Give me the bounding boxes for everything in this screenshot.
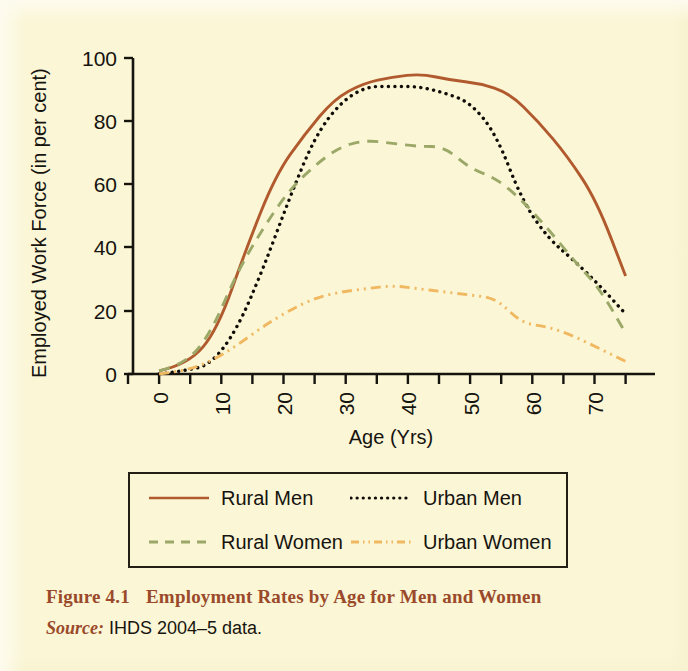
figure-page: 100 80 60 40 20 0 Employed Work Force (i…	[0, 0, 688, 671]
series-line-urban-men	[159, 86, 625, 374]
legend-swatch-urban-men	[350, 491, 412, 505]
y-tick-40: 40	[94, 236, 117, 259]
x-tick-70: 70	[584, 392, 607, 415]
source-text: IHDS 2004–5 data.	[109, 618, 262, 638]
x-tick-10: 10	[211, 392, 234, 415]
x-axis-title: Age (Yrs)	[349, 426, 433, 448]
x-tick-40: 40	[397, 392, 420, 415]
source-label: Source:	[46, 618, 104, 638]
y-axis-tick-labels: 100 80 60 40 20 0	[82, 47, 117, 386]
x-tick-50: 50	[460, 392, 483, 415]
x-tick-20: 20	[273, 392, 296, 415]
legend-entry-urban-men: Urban Men	[350, 487, 552, 510]
series-line-rural-men	[159, 75, 625, 371]
employment-rates-line-chart: 100 80 60 40 20 0 Employed Work Force (i…	[0, 0, 688, 460]
x-tick-0: 0	[149, 392, 172, 404]
caption-block: Figure 4.1Employment Rates by Age for Me…	[46, 586, 646, 639]
figure-caption: Figure 4.1Employment Rates by Age for Me…	[46, 586, 646, 608]
chart-plot-area: 100 80 60 40 20 0 Employed Work Force (i…	[0, 0, 688, 460]
legend-label-urban-men: Urban Men	[423, 487, 522, 510]
y-tick-20: 20	[94, 300, 117, 323]
y-tick-60: 60	[94, 173, 117, 196]
figure-title: Employment Rates by Age for Men and Wome…	[146, 586, 541, 607]
legend-swatch-rural-men	[148, 491, 210, 505]
legend-entry-rural-men: Rural Men	[148, 487, 350, 510]
source-line: Source:IHDS 2004–5 data.	[46, 618, 646, 639]
chart-legend: Rural Men Urban Men Rural Women Urban Wo…	[128, 472, 568, 568]
y-tick-100: 100	[82, 47, 117, 70]
y-axis-ticks	[124, 58, 133, 374]
y-tick-0: 0	[105, 363, 117, 386]
chart-series-layer	[159, 75, 625, 374]
y-axis-title: Employed Work Force (in per cent)	[28, 68, 50, 378]
series-line-rural-women	[159, 141, 625, 371]
x-tick-30: 30	[335, 392, 358, 415]
legend-entry-rural-women: Rural Women	[148, 531, 350, 554]
legend-swatch-rural-women	[148, 535, 210, 549]
legend-label-rural-men: Rural Men	[221, 487, 313, 510]
legend-swatch-urban-women	[350, 535, 412, 549]
x-axis-ticks	[128, 374, 626, 384]
legend-label-urban-women: Urban Women	[423, 531, 552, 554]
y-tick-80: 80	[94, 110, 117, 133]
x-tick-60: 60	[522, 392, 545, 415]
legend-entry-urban-women: Urban Women	[350, 531, 552, 554]
figure-number: Figure 4.1	[46, 586, 130, 607]
x-axis-tick-labels: 0 10 20 30 40 50 60 70	[149, 392, 607, 415]
legend-label-rural-women: Rural Women	[221, 531, 343, 554]
